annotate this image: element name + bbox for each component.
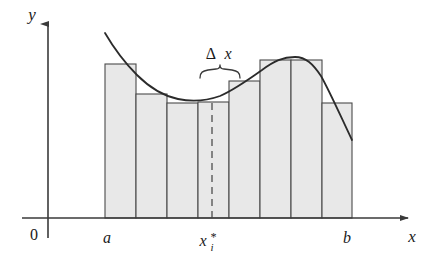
riemann-rect-1	[105, 64, 136, 218]
origin-label: 0	[30, 226, 38, 243]
sample-point-label: x i *	[198, 230, 216, 253]
sample-point-superscript: *	[210, 230, 216, 244]
sample-point-base: x	[198, 232, 206, 249]
riemann-sum-diagram: y x 0 a b x i * Δ x	[0, 0, 434, 273]
riemann-rect-5	[229, 81, 260, 218]
riemann-rect-8	[322, 103, 352, 218]
delta-x-brace	[200, 65, 240, 78]
riemann-rect-4	[198, 102, 229, 218]
riemann-rectangles	[105, 60, 352, 218]
riemann-rect-6	[260, 60, 291, 218]
x-axis-label: x	[407, 227, 416, 246]
riemann-rect-7	[291, 60, 322, 218]
riemann-rect-2	[136, 94, 167, 218]
lower-limit-label-a: a	[103, 229, 111, 246]
upper-limit-label-b: b	[343, 229, 351, 246]
delta-variable: x	[223, 45, 231, 62]
y-axis-label: y	[26, 5, 36, 24]
riemann-rect-3	[167, 103, 198, 218]
delta-x-label: Δ x	[206, 45, 232, 62]
delta-symbol: Δ	[206, 45, 216, 62]
